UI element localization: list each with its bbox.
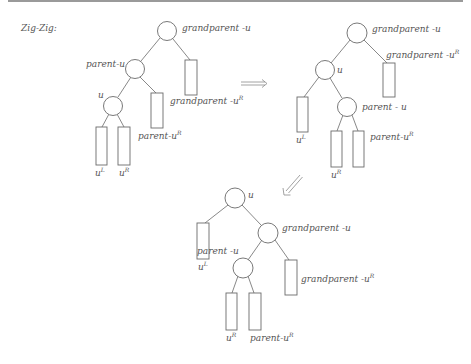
edge <box>117 114 124 127</box>
edge <box>205 205 228 223</box>
label-parent: parent - u <box>362 102 407 112</box>
label-grandparent-right: grandparent -uR <box>170 94 244 106</box>
subtree-parent-right <box>249 293 261 330</box>
edge <box>248 276 254 293</box>
label-grandparent-right: grandparent -uR <box>301 272 375 284</box>
tree-middle: grandparent -u grandparent -uR u parent … <box>296 23 460 180</box>
label-grandparent: grandparent -u <box>282 223 351 233</box>
edge <box>330 78 342 98</box>
edge <box>173 39 190 60</box>
label-u-left: uL <box>198 260 208 272</box>
edge <box>304 77 319 97</box>
subtree-u-left <box>297 97 308 132</box>
diagram-title: Zig-Zig: <box>20 23 57 33</box>
label-u-right: uR <box>119 166 130 178</box>
subtree-u-left <box>96 127 107 165</box>
edge <box>140 77 156 93</box>
edge <box>352 115 358 131</box>
label-u: u <box>98 90 104 100</box>
subtree-grandparent-right <box>185 60 197 95</box>
label-u: u <box>337 65 343 75</box>
edge <box>275 240 289 260</box>
label-parent-right: parent-uR <box>250 331 294 343</box>
label-u-left: uL <box>296 133 306 145</box>
label-grandparent: grandparent -u <box>182 23 251 33</box>
subtree-u-right <box>331 131 342 167</box>
node-u <box>316 61 335 80</box>
label-grandparent: grandparent -u <box>372 24 441 34</box>
subtree-grandparent-right <box>285 260 297 295</box>
label-parent: parent -u <box>197 246 239 256</box>
node-parent <box>126 60 145 79</box>
tree-before: grandparent -u parent-u u grandparent -u… <box>86 22 251 179</box>
edge <box>248 240 262 260</box>
label-grandparent-right: grandparent -uR <box>386 48 460 60</box>
edge <box>364 40 387 63</box>
subtree-parent-right <box>151 93 163 128</box>
label-u-left: uL <box>95 166 105 178</box>
subtree-parent-right <box>353 131 364 167</box>
edge <box>102 114 109 127</box>
node-u <box>225 188 245 208</box>
subtree-grandparent-right <box>383 63 395 97</box>
node-grandparent <box>347 23 367 43</box>
edge <box>242 205 261 225</box>
node-grandparent <box>158 22 177 41</box>
label-parent-right: parent-uR <box>370 130 414 142</box>
edge <box>337 115 343 131</box>
arrow-down-left-icon <box>283 175 303 195</box>
node-u <box>104 97 123 116</box>
node-parent <box>233 258 253 278</box>
label-parent-right: parent-uR <box>138 129 182 141</box>
edge <box>118 77 131 97</box>
edge <box>331 40 350 63</box>
node-parent <box>338 98 357 117</box>
edge <box>232 276 238 293</box>
label-u: u <box>248 190 254 200</box>
label-parent: parent-u <box>86 59 125 69</box>
node-grandparent <box>258 223 278 243</box>
subtree-u-right <box>118 127 130 165</box>
arrow-right-icon <box>241 80 267 88</box>
edge <box>141 38 160 61</box>
label-u-right: uR <box>226 331 237 343</box>
zig-zig-diagram: Zig-Zig: grandparent -u parent-u u grand… <box>0 0 471 364</box>
label-u-right: uR <box>331 168 342 180</box>
subtree-u-right <box>226 293 237 330</box>
tree-after: u grandparent -u parent -u uL grandparen… <box>197 188 375 343</box>
